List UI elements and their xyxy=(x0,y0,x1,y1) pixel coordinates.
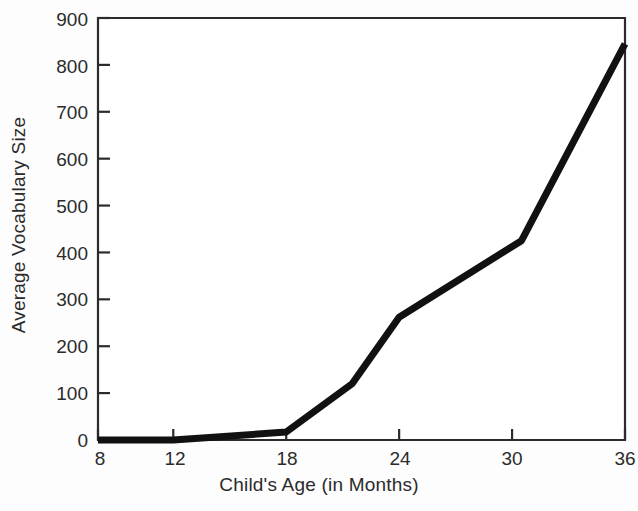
chart-figure: 0 100 200 300 400 500 600 700 800 900 8 … xyxy=(0,0,638,511)
x-tick-label-12: 12 xyxy=(147,448,203,470)
y-tick-label-900: 900 xyxy=(32,9,88,31)
x-tick-label-36: 36 xyxy=(597,448,638,470)
plot-area-background xyxy=(98,18,625,440)
y-tick-label-400: 400 xyxy=(32,243,88,265)
y-tick-label-200: 200 xyxy=(32,336,88,358)
x-tick-label-8: 8 xyxy=(72,448,128,470)
y-tick-label-700: 700 xyxy=(32,102,88,124)
y-tick-label-300: 300 xyxy=(32,289,88,311)
x-tick-label-24: 24 xyxy=(372,448,428,470)
x-axis-title: Child's Age (in Months) xyxy=(0,474,638,496)
y-axis-title-wrap: Average Vocabulary Size xyxy=(2,0,36,450)
x-tick-label-18: 18 xyxy=(259,448,315,470)
y-tick-label-500: 500 xyxy=(32,196,88,218)
y-tick-label-800: 800 xyxy=(32,56,88,78)
y-tick-label-100: 100 xyxy=(32,383,88,405)
vocabulary-growth-line-chart xyxy=(0,0,638,511)
x-tick-label-30: 30 xyxy=(484,448,540,470)
y-tick-label-600: 600 xyxy=(32,149,88,171)
y-axis-title: Average Vocabulary Size xyxy=(8,117,30,334)
